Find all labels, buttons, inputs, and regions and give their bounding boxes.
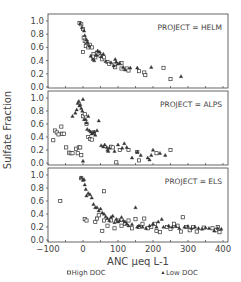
y-axis-label: Sulfate Fraction: [2, 91, 13, 169]
panel-label: PROJECT = ELS: [165, 177, 222, 186]
legend: High DOCLow DOC: [68, 269, 198, 277]
square-marker-icon: [68, 271, 71, 274]
series-high-doc: [52, 113, 172, 164]
x-tick-label: 0: [80, 244, 85, 254]
triangle-marker-icon: [161, 271, 164, 274]
y-tick-label: 1.0: [30, 170, 44, 180]
y-tick-label: 0.6: [30, 42, 44, 52]
panel-label: PROJECT = ALPS: [160, 100, 222, 109]
y-tick-label: 0.8: [30, 106, 44, 116]
legend-item-high-doc: High DOC: [72, 269, 106, 277]
y-tick-label: 0.2: [30, 69, 44, 79]
y-tick-label: 0.8: [30, 183, 44, 193]
panel-els: 0.00.20.40.60.81.0PROJECT = ELS: [30, 168, 228, 245]
y-tick-label: 0.2: [30, 145, 44, 155]
x-tick-label: 400: [215, 244, 231, 254]
y-tick-label: 0.4: [30, 209, 44, 219]
y-tick-label: 0.0: [30, 158, 44, 168]
y-tick-label: 0.0: [30, 82, 44, 92]
y-tick-label: 0.8: [30, 29, 44, 39]
legend-item-low-doc: Low DOC: [166, 269, 198, 277]
x-tick-label: 300: [180, 244, 196, 254]
y-tick-label: 0.4: [30, 56, 44, 66]
x-tick-labels: −1000100200300400: [36, 244, 231, 254]
x-tick-label: −100: [36, 244, 59, 254]
series-low-doc: [71, 98, 167, 163]
y-tick-label: 0.6: [30, 119, 44, 129]
y-tick-label: 0.4: [30, 132, 44, 142]
y-tick-label: 0.2: [30, 222, 44, 232]
x-tick-label: 100: [110, 244, 126, 254]
scatter-chart: 0.00.20.40.60.81.0PROJECT = HELM0.00.20.…: [0, 0, 241, 282]
panel-helm: 0.00.20.40.60.81.0PROJECT = HELM: [30, 14, 228, 92]
y-tick-label: 1.0: [30, 16, 44, 26]
x-tick-label: 200: [145, 244, 161, 254]
y-tick-label: 0.6: [30, 196, 44, 206]
y-tick-label: 1.0: [30, 93, 44, 103]
panel-alps: 0.00.20.40.60.81.0PROJECT = ALPS: [30, 91, 228, 168]
panel-label: PROJECT = HELM: [158, 23, 223, 32]
x-axis-label: ANC μeq L-1: [107, 256, 169, 267]
